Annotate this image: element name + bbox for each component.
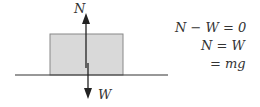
equation-2: N = W [201,38,245,53]
equation-1: N − W = 0 [175,20,246,35]
weight-label: W [98,87,113,102]
weight-arrowhead-icon [84,88,92,99]
free-body-diagram: N W [0,0,260,107]
normal-label: N [73,1,86,16]
equation-3: = mg [210,56,246,71]
